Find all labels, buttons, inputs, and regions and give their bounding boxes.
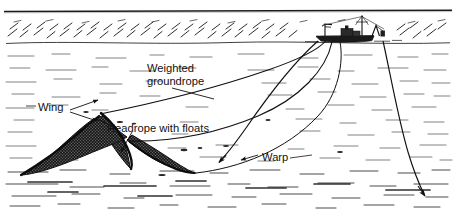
paper-background xyxy=(0,0,456,221)
label-headrope-with-floats: Headrope with floats xyxy=(107,122,209,134)
label-weighted-groundrope-line1: Weighted xyxy=(147,62,194,74)
label-warp: Warp xyxy=(262,151,288,163)
label-weighted-groundrope-line2: groundrope xyxy=(147,75,204,87)
trawl-diagram-figure: Weighted groundrope Wing Headrope with f… xyxy=(0,0,456,221)
label-wing: Wing xyxy=(38,101,64,113)
diagram-canvas: Weighted groundrope Wing Headrope with f… xyxy=(0,0,456,221)
